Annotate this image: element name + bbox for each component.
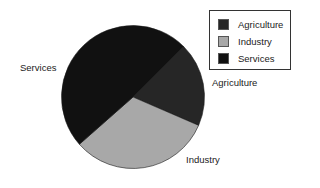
legend: Agriculture Industry Services bbox=[209, 10, 291, 70]
slice-label-industry: Industry bbox=[186, 155, 220, 165]
legend-item-agriculture: Agriculture bbox=[218, 18, 283, 30]
legend-swatch-industry bbox=[218, 36, 229, 47]
legend-item-services: Services bbox=[218, 52, 274, 64]
slice-label-agriculture: Agriculture bbox=[212, 78, 257, 88]
legend-label-services: Services bbox=[238, 53, 274, 64]
legend-item-industry: Industry bbox=[218, 35, 272, 47]
legend-swatch-agriculture bbox=[218, 19, 229, 30]
legend-label-industry: Industry bbox=[238, 36, 272, 47]
legend-label-agriculture: Agriculture bbox=[238, 19, 283, 30]
slice-label-services: Services bbox=[20, 63, 56, 73]
pie-slices bbox=[61, 25, 204, 168]
legend-swatch-services bbox=[218, 53, 229, 64]
